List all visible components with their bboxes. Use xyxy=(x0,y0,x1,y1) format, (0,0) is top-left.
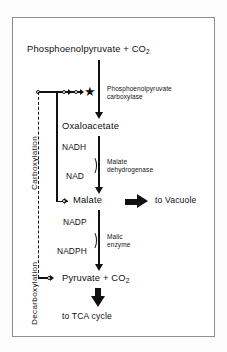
node-pep-text: Phosphoenolpyruvate + CO xyxy=(27,43,146,54)
feedback-barb-b xyxy=(80,89,84,95)
arrow-malate-to-pyruvate-head xyxy=(95,264,103,271)
enzyme-pepc-line2: carboxylase xyxy=(107,93,143,100)
arrow-malate-to-pyruvate-stem xyxy=(98,210,100,266)
feedback-circle-b xyxy=(74,90,78,94)
feedback-pyruvate-dashed-vertical xyxy=(38,92,39,278)
cofactor-nad: NAD xyxy=(66,172,84,181)
regulation-star-icon: ★ xyxy=(84,85,96,98)
destination-vacuole: to Vacuole xyxy=(155,196,196,206)
node-pyruvate-text: Pyruvate + CO xyxy=(62,272,126,283)
figure-canvas: Carboxylation Decarboxylation Phosphoeno… xyxy=(0,0,227,352)
feedback-barb-a xyxy=(68,89,72,95)
figure-border xyxy=(12,17,215,337)
cofactor-curve-nadh-nad xyxy=(88,156,97,175)
arrow-pep-to-oaa-head xyxy=(95,112,103,119)
node-pyruvate-subscript: 2 xyxy=(126,277,130,284)
feedback-circle-a xyxy=(62,90,66,94)
node-phosphoenolpyruvate: Phosphoenolpyruvate + CO2 xyxy=(27,44,150,55)
enzyme-mdh-line1: Malate xyxy=(107,158,127,165)
feedback-malate-circle xyxy=(62,199,66,203)
arrow-oaa-to-malate-head xyxy=(95,187,103,194)
cofactor-nadp: NADP xyxy=(63,218,87,227)
enzyme-malate-dehydrogenase: Malate dehydrogenase xyxy=(107,158,153,174)
feedback-pyruvate-circle xyxy=(47,276,51,280)
arrow-oaa-to-malate-stem xyxy=(98,136,100,189)
arrow-to-vacuole-head xyxy=(137,194,148,208)
feedback-malate-vertical xyxy=(56,92,57,201)
node-malate: Malate xyxy=(73,195,102,206)
arrow-to-tca-head xyxy=(91,296,105,307)
enzyme-mdh-line2: dehydrogenase xyxy=(107,166,153,173)
cofactor-nadph: NADPH xyxy=(57,247,87,256)
node-pep-subscript: 2 xyxy=(146,48,150,55)
enzyme-pepc-line1: Phosphoenolpyruvate xyxy=(107,85,172,92)
cofactor-curve-nadp-nadph xyxy=(88,231,97,250)
destination-tca-cycle: to TCA cycle xyxy=(62,312,112,322)
arrow-pep-to-oaa-stem xyxy=(98,60,100,114)
cofactor-nadh: NADH xyxy=(62,143,86,152)
enzyme-me-line1: Malic xyxy=(107,233,123,240)
node-pyruvate: Pyruvate + CO2 xyxy=(62,273,130,284)
enzyme-me-line2: enzyme xyxy=(107,241,130,248)
enzyme-pep-carboxylase: Phosphoenolpyruvate carboxylase xyxy=(107,85,172,101)
enzyme-malic-enzyme: Malic enzyme xyxy=(107,233,130,249)
node-oxaloacetate: Oxaloacetate xyxy=(62,121,119,132)
